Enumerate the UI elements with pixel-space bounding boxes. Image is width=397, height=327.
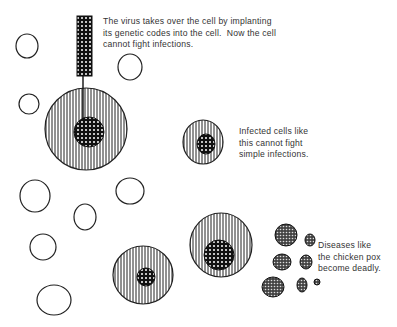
disease-particle	[300, 255, 312, 269]
disease-particle	[273, 254, 291, 270]
caption-diseases: Diseases like the chicken pox become dea…	[318, 240, 381, 275]
caption-infected-cells: Infected cells like this cannot fight si…	[239, 126, 309, 161]
healthy-cell	[16, 34, 38, 58]
healthy-cell	[20, 180, 50, 212]
healthy-cell	[116, 178, 144, 204]
healthy-cell	[37, 285, 71, 315]
disease-particle	[314, 279, 320, 285]
caption-virus: The virus takes over the cell by implant…	[103, 16, 276, 51]
healthy-cell	[30, 234, 56, 260]
disease-particle	[275, 224, 297, 246]
infected-cell	[183, 120, 223, 164]
healthy-cell	[118, 54, 142, 80]
disease-particles	[262, 224, 320, 297]
infected-cell	[113, 246, 173, 304]
disease-particle	[305, 234, 315, 246]
disease-particle	[297, 278, 307, 292]
infected-host-cell	[45, 76, 127, 170]
disease-particle	[262, 277, 284, 297]
virus-icon	[77, 16, 92, 76]
healthy-cell	[74, 204, 96, 230]
healthy-cell	[19, 94, 39, 114]
infected-cell	[190, 213, 252, 277]
